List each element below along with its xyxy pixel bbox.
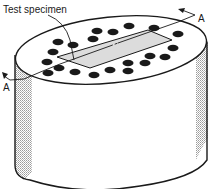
hole <box>68 42 79 48</box>
specimen-holder-diagram: Test specimen A A <box>0 0 212 189</box>
hole <box>89 72 100 78</box>
hole <box>88 36 99 42</box>
hole <box>48 49 59 55</box>
specimen-label: Test specimen <box>3 4 67 15</box>
hole <box>145 53 156 59</box>
hole <box>124 23 135 29</box>
section-marker-left: A <box>3 82 10 93</box>
hole <box>140 60 151 66</box>
hole <box>168 45 179 51</box>
hole <box>123 68 134 74</box>
hole <box>70 69 81 75</box>
hole <box>160 54 171 60</box>
hole <box>173 31 184 37</box>
hole <box>108 29 119 35</box>
hole <box>105 67 116 73</box>
section-marker-right: A <box>198 13 205 24</box>
arrow-right-icon <box>178 8 185 13</box>
hole <box>92 28 103 34</box>
hole <box>42 59 53 65</box>
right-shade <box>196 40 208 160</box>
hole <box>123 60 134 66</box>
hole <box>53 39 64 45</box>
